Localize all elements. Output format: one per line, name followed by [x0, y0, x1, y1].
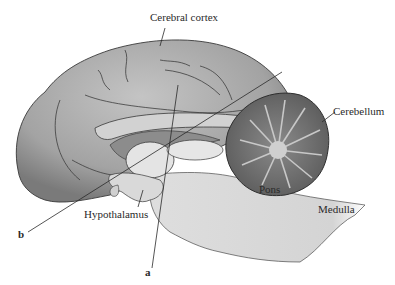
brain-illustration: [0, 0, 395, 285]
thalamus: [126, 142, 174, 178]
label-cerebral-cortex: Cerebral cortex: [150, 12, 218, 23]
label-medulla: Medulla: [318, 204, 355, 215]
brain-diagram: Cerebral cortex Cerebellum Pons Medulla …: [0, 0, 395, 285]
label-pons: Pons: [259, 184, 280, 195]
label-b: b: [18, 229, 24, 240]
label-hypothalamus: Hypothalamus: [84, 209, 148, 220]
midbrain: [167, 140, 223, 160]
label-a: a: [145, 267, 151, 278]
label-cerebellum: Cerebellum: [333, 106, 384, 117]
